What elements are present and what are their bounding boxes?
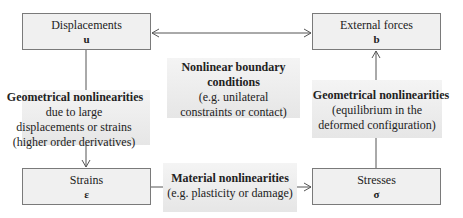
geometrical-nonlinearity-right-label: Geometrical nonlinearities (equilibrium …	[312, 80, 442, 138]
node-symbol: b	[313, 32, 440, 46]
label-line: (e.g. unilateral	[167, 90, 300, 105]
node-symbol: ε	[23, 187, 150, 201]
label-line: constraints or contact)	[167, 105, 300, 120]
label-heading: Geometrical nonlinearities	[0, 90, 152, 105]
boundary-nonlinearity-label: Nonlinear boundary conditions (e.g. unil…	[167, 58, 300, 118]
geometrical-nonlinearity-left-label: Geometrical nonlinearities due to large …	[22, 90, 150, 145]
label-line: (e.g. plasticity or damage)	[163, 186, 297, 201]
label-line: displacements or strains	[0, 120, 150, 135]
label-line: (higher order derivatives)	[0, 135, 150, 150]
label-line: deformed configuration)	[312, 118, 442, 133]
material-nonlinearity-label: Material nonlinearities (e.g. plasticity…	[163, 163, 297, 212]
label-heading: Nonlinear boundary conditions	[167, 60, 300, 90]
node-symbol: σ	[313, 187, 440, 201]
strains-node: Strains ε	[22, 168, 151, 205]
node-title: External forces	[313, 18, 440, 32]
label-line: (equilibrium in the	[312, 103, 442, 118]
node-symbol: u	[23, 32, 150, 46]
node-title: Stresses	[313, 173, 440, 187]
displacements-node: Displacements u	[22, 13, 151, 50]
node-title: Strains	[23, 173, 150, 187]
stresses-node: Stresses σ	[312, 168, 441, 205]
label-heading: Material nonlinearities	[163, 171, 297, 186]
node-title: Displacements	[23, 18, 150, 32]
label-line: due to large	[0, 105, 150, 120]
external-forces-node: External forces b	[312, 13, 441, 50]
label-heading: Geometrical nonlinearities	[306, 88, 456, 103]
